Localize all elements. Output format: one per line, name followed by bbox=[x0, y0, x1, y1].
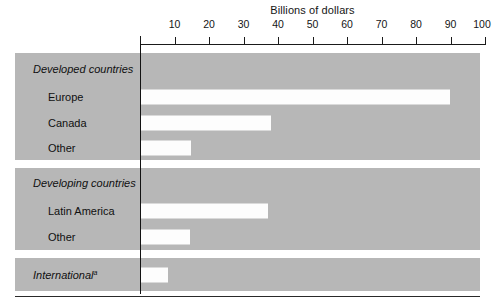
axis-tick-labels: 10 20 30 40 50 60 70 80 90 100 bbox=[0, 18, 495, 31]
bar-latin-america bbox=[140, 204, 268, 219]
axis-tick-label-10: 10 bbox=[169, 18, 181, 30]
axis-tick-label-90: 90 bbox=[445, 18, 457, 30]
axis-tick-70 bbox=[382, 37, 383, 45]
row-europe: Europe bbox=[15, 84, 480, 110]
axis-tick-20 bbox=[209, 37, 210, 45]
axis-tick-90 bbox=[451, 37, 452, 45]
axis-tick-label-20: 20 bbox=[203, 18, 215, 30]
axis-tick-label-100: 100 bbox=[473, 18, 491, 30]
row-label-developed-countries: Developed countries bbox=[33, 63, 133, 75]
panel-developing-countries: Developing countries Latin America Other bbox=[15, 168, 480, 250]
axis-tick-label-80: 80 bbox=[410, 18, 422, 30]
row-developing-other: Other bbox=[15, 224, 480, 250]
row-label-europe: Europe bbox=[48, 91, 83, 103]
bar-international bbox=[140, 267, 168, 282]
chart-container: Billions of dollars 10 20 30 40 50 60 70… bbox=[0, 0, 495, 304]
row-developed-other: Other bbox=[15, 136, 480, 160]
axis-tick-label-30: 30 bbox=[238, 18, 250, 30]
bottom-rule bbox=[15, 296, 480, 297]
row-label-developing-other: Other bbox=[48, 231, 76, 243]
axis-tick-80 bbox=[416, 37, 417, 45]
chart-title: Billions of dollars bbox=[140, 4, 485, 16]
axis-tick-label-60: 60 bbox=[341, 18, 353, 30]
row-label-developing-countries: Developing countries bbox=[33, 177, 136, 189]
axis-tick-label-50: 50 bbox=[307, 18, 319, 30]
axis-tick-60 bbox=[347, 37, 348, 45]
row-label-international: Internationala bbox=[33, 268, 97, 281]
axis-tick-40 bbox=[278, 37, 279, 45]
axis-tick-label-70: 70 bbox=[376, 18, 388, 30]
row-label-canada: Canada bbox=[48, 117, 87, 129]
axis-tick-label-40: 40 bbox=[272, 18, 284, 30]
panel-developed-countries: Developed countries Europe Canada Other bbox=[15, 53, 480, 160]
bar-developed-other bbox=[140, 141, 191, 156]
row-label-international-text: International bbox=[33, 269, 94, 281]
row-label-latin-america: Latin America bbox=[48, 205, 115, 217]
bar-developing-other bbox=[140, 230, 190, 245]
row-international: Internationala bbox=[15, 258, 480, 291]
row-label-developed-other: Other bbox=[48, 142, 76, 154]
axis-baseline bbox=[140, 44, 141, 294]
footnote-marker: a bbox=[94, 268, 98, 275]
bar-europe bbox=[140, 90, 450, 105]
row-canada: Canada bbox=[15, 110, 480, 136]
axis-tick-50 bbox=[313, 37, 314, 45]
axis-tick-10 bbox=[175, 37, 176, 45]
axis-tick-30 bbox=[244, 37, 245, 45]
row-latin-america: Latin America bbox=[15, 198, 480, 224]
panel-international: Internationala bbox=[15, 258, 480, 291]
bar-canada bbox=[140, 116, 271, 131]
row-developed-countries-header: Developed countries bbox=[15, 53, 480, 84]
row-developing-countries-header: Developing countries bbox=[15, 168, 480, 198]
axis-tick-100 bbox=[485, 37, 486, 45]
